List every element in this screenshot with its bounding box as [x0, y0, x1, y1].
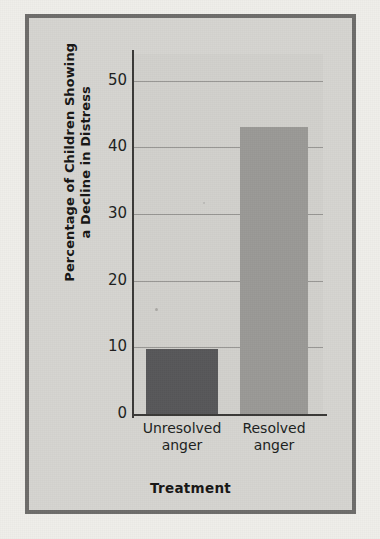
x-axis-title: Treatment: [29, 480, 352, 496]
gridline-50: [133, 81, 323, 82]
paper-speck: [155, 308, 158, 311]
x-category-label-1-line-1: Unresolved: [132, 420, 232, 437]
y-tick-label-50: 50: [93, 73, 127, 88]
x-category-label-2-line-1: Resolved: [224, 420, 324, 437]
bar-2: [240, 127, 308, 414]
figure-frame: 01020304050 Percentage of Children Showi…: [25, 14, 356, 514]
y-axis-title-line-1: Percentage of Children Showing: [62, 17, 78, 307]
y-tick-label-10: 10: [93, 339, 127, 354]
x-axis-line: [132, 414, 327, 416]
x-category-label-2-line-2: anger: [224, 437, 324, 454]
x-category-label-1: Unresolvedanger: [132, 420, 232, 453]
x-category-label-1-line-2: anger: [132, 437, 232, 454]
y-tick-label-40: 40: [93, 139, 127, 154]
x-category-label-2: Resolvedanger: [224, 420, 324, 453]
paper-speck: [203, 202, 205, 204]
y-tick-label-30: 30: [93, 206, 127, 221]
bar-1: [146, 349, 218, 414]
y-tick-label-20: 20: [93, 273, 127, 288]
bar-chart: 01020304050 Percentage of Children Showi…: [29, 18, 352, 510]
y-axis-line: [132, 50, 134, 418]
y-tick-label-0: 0: [93, 406, 127, 421]
y-axis-title: Percentage of Children Showing a Decline…: [62, 17, 95, 307]
plot-panel: [133, 54, 323, 414]
y-axis-title-line-2: a Decline in Distress: [78, 17, 94, 307]
